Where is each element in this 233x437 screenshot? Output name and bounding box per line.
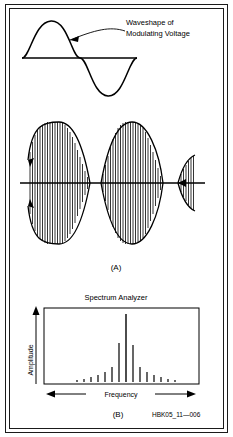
annotation-leader: [70, 29, 125, 42]
amplitude-axis-label: Amplitude: [27, 344, 35, 375]
frequency-arrow-left-icon: [46, 391, 55, 398]
annotation-line-2: Modulating Voltage: [126, 29, 190, 38]
burst1-upper-tip-icon: [28, 158, 34, 167]
burst3-envelope-lower: [178, 183, 195, 211]
modulating-wave-group: [22, 21, 137, 96]
panel-b-label: (B): [113, 410, 124, 419]
annotation-line-1: Waveshape of: [126, 18, 175, 27]
am-waveform-group: [20, 122, 205, 244]
spectrum-lines: [77, 314, 175, 382]
spectrum-title: Spectrum Analyzer: [85, 293, 148, 302]
frequency-axis: Frequency: [46, 391, 196, 400]
burst1-lower-tip-icon: [28, 199, 34, 208]
figure-id-code: HBK05_11—006: [152, 411, 201, 419]
burst3-envelope-upper: [178, 155, 195, 183]
figure-artwork: Waveshape of Modulating Voltage: [0, 0, 233, 437]
amplitude-axis: Amplitude: [27, 306, 40, 384]
spectrum-plot-box: [44, 308, 199, 384]
frequency-axis-label: Frequency: [104, 391, 138, 399]
panel-a-label: (A): [111, 263, 122, 272]
figure-container: Waveshape of Modulating Voltage: [0, 0, 233, 437]
frequency-arrow-right-icon: [187, 391, 196, 398]
amplitude-arrow-icon: [33, 306, 40, 315]
